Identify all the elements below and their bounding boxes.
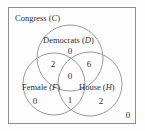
region-count-female-only: 0 <box>33 96 38 106</box>
venn-diagram-figure: Congress (C) Democrats (D) Female (F) Ho… <box>0 0 145 131</box>
set-label-house: House (H) <box>79 82 115 92</box>
universe-label: Congress (C) <box>15 13 60 23</box>
region-count-female-and-democrats: 2 <box>51 59 56 69</box>
region-count-all-three: 0 <box>68 71 73 81</box>
region-count-female-and-house: 1 <box>68 95 73 105</box>
set-label-democrats-name: Democrats <box>43 35 80 45</box>
region-count-outside-all: 0 <box>126 110 131 120</box>
set-label-female-name: Female <box>22 82 47 92</box>
region-count-democrats-and-house: 6 <box>87 59 92 69</box>
venn-diagram-canvas: Congress (C) Democrats (D) Female (F) Ho… <box>0 0 145 131</box>
universe-label-name: Congress <box>15 13 47 23</box>
set-label-house-name: House <box>79 82 101 92</box>
region-count-democrats-only: 0 <box>68 46 73 56</box>
region-count-house-only: 2 <box>99 96 104 106</box>
set-label-democrats: Democrats (D) <box>43 35 94 45</box>
set-label-female: Female (F) <box>22 82 60 92</box>
